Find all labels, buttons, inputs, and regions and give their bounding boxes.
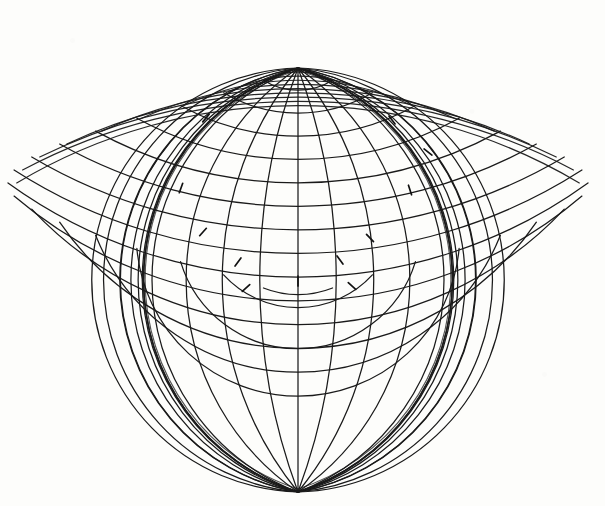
projection-figure [0,0,605,506]
graticule-svg [0,0,605,506]
